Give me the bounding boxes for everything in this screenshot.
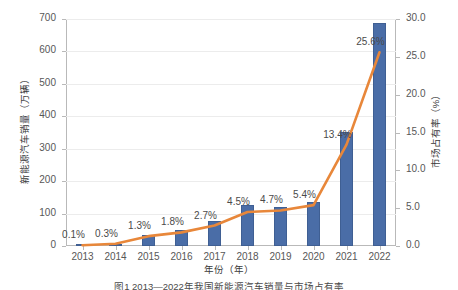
y-axis-left-tick-label: 700 bbox=[39, 12, 56, 23]
tick-mark bbox=[396, 246, 400, 247]
y-axis-left-title: 新能源汽车销量（万辆） bbox=[17, 54, 31, 204]
y-axis-left-tick-label: 300 bbox=[39, 142, 56, 153]
tick-mark bbox=[215, 246, 216, 250]
y-axis-right-tick-label: 10.0 bbox=[406, 163, 425, 174]
data-label: 25.6% bbox=[348, 36, 394, 47]
y-axis-right-tick-label: 5.0 bbox=[406, 201, 420, 212]
tick-mark bbox=[396, 170, 400, 171]
y-axis-left-tick-label: 100 bbox=[39, 207, 56, 218]
chart-figure: 新能源汽车销量（万辆） 市场占有率（%） 年份（年） 0100200300400… bbox=[0, 0, 458, 290]
tick-mark bbox=[380, 246, 381, 250]
y-axis-left-tick-label: 500 bbox=[39, 77, 56, 88]
tick-mark bbox=[396, 208, 400, 209]
tick-mark bbox=[396, 57, 400, 58]
figure-caption: 图1 2013—2022年我国新能源汽车销量与市场占有率 bbox=[0, 279, 458, 290]
tick-mark bbox=[149, 246, 150, 250]
tick-mark bbox=[83, 246, 84, 250]
tick-mark bbox=[396, 133, 400, 134]
x-axis-title: 年份（年） bbox=[0, 262, 458, 276]
y-axis-right-tick-label: 0.0 bbox=[406, 239, 420, 250]
tick-mark bbox=[314, 246, 315, 250]
y-axis-right-title: 市场占有率（%） bbox=[428, 54, 442, 204]
tick-mark bbox=[248, 246, 249, 250]
tick-mark bbox=[347, 246, 348, 250]
y-axis-right-tick-label: 20.0 bbox=[406, 88, 425, 99]
y-axis-left-tick-label: 600 bbox=[39, 44, 56, 55]
tick-mark bbox=[281, 246, 282, 250]
y-axis-left-tick-label: 200 bbox=[39, 174, 56, 185]
y-axis-right-tick-label: 15.0 bbox=[406, 126, 425, 137]
tick-mark bbox=[396, 19, 400, 20]
y-axis-right-tick-label: 25.0 bbox=[406, 50, 425, 61]
data-label: 13.4% bbox=[315, 129, 361, 140]
tick-mark bbox=[116, 246, 117, 250]
data-label: 2.7% bbox=[183, 210, 229, 221]
tick-mark bbox=[396, 95, 400, 96]
tick-mark bbox=[182, 246, 183, 250]
plot-area: 0100200300400500600700 0.05.010.015.020.… bbox=[66, 19, 396, 246]
x-axis-tick-label: 2022 bbox=[360, 251, 400, 262]
data-label: 5.4% bbox=[282, 189, 328, 200]
y-axis-right-tick-label: 30.0 bbox=[406, 12, 425, 23]
tick-mark bbox=[62, 246, 66, 247]
y-axis-left-tick-label: 0 bbox=[50, 239, 56, 250]
y-axis-left-tick-label: 400 bbox=[39, 109, 56, 120]
